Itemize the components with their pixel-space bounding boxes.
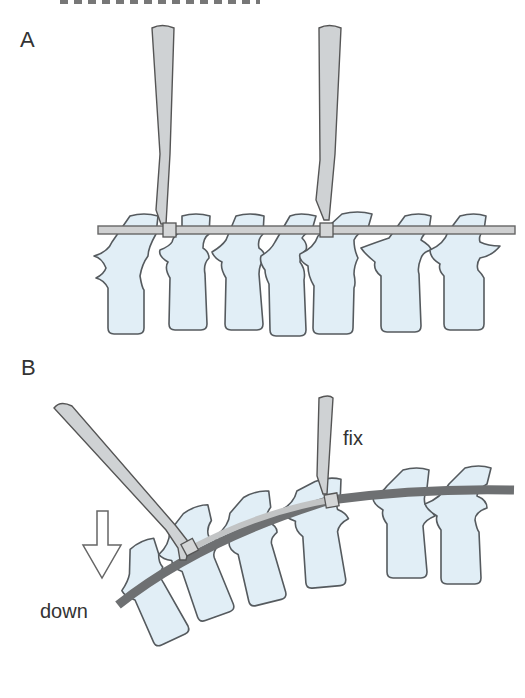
spine-diagram — [0, 0, 525, 698]
panel-a-left-clamp — [163, 223, 176, 237]
panel-b-left-instrument — [54, 403, 190, 560]
panel-a-right-instrument — [316, 26, 341, 221]
vertebra — [425, 466, 491, 584]
panel-a-right-clamp — [320, 223, 333, 237]
down-arrow-icon — [83, 511, 121, 578]
panel-a-rod — [98, 226, 515, 234]
panel-b-right-clamp — [324, 493, 339, 508]
panel-a-left-instrument — [152, 26, 174, 225]
vertebra — [373, 468, 435, 578]
